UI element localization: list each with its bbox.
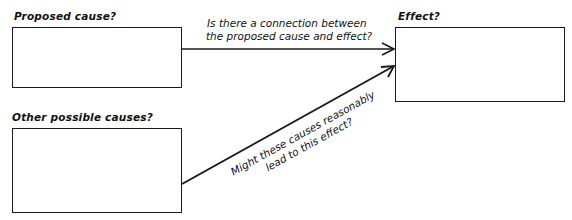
connection-arrow (182, 43, 394, 55)
alternative-arrow (182, 66, 394, 184)
connection-caption-line2: the proposed cause and effect? (206, 30, 372, 43)
connection-caption-line1: Is there a connection between (207, 17, 367, 30)
